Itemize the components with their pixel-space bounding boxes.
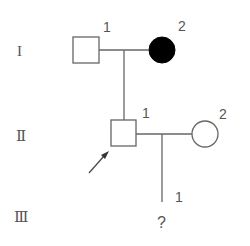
unknown-status-III-1: ?	[157, 214, 166, 231]
individual-number-II-1: 1	[142, 105, 150, 121]
individual-number-II-2: 2	[219, 106, 227, 122]
female-affected-I-2	[149, 37, 175, 63]
male-unaffected-I-1	[73, 37, 99, 63]
generation-label-2: Ⅱ	[16, 128, 26, 144]
individual-number-I-2: 2	[178, 18, 186, 34]
proband-arrow-icon	[89, 151, 109, 173]
generation-label-3: Ⅲ	[14, 209, 28, 225]
individual-number-I-1: 1	[103, 19, 111, 35]
generation-label-1: I	[17, 43, 22, 59]
individual-number-III-1: 1	[175, 189, 183, 205]
pedigree-diagram: I Ⅱ Ⅲ 1 2 1 2 1 ?	[0, 0, 250, 246]
female-unaffected-II-2	[192, 121, 218, 147]
male-unaffected-II-1-proband	[111, 120, 136, 146]
